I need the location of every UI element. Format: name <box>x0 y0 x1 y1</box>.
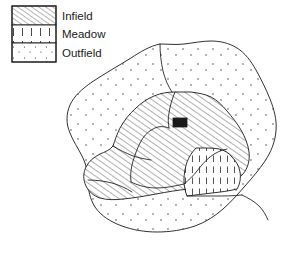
legend-swatch-meadow <box>12 25 56 43</box>
legend-label-infield: Infield <box>62 10 93 22</box>
legend-label-outfield: Outfield <box>62 47 102 59</box>
building-marker <box>173 118 187 127</box>
legend-swatch-infield <box>12 6 56 25</box>
legend-swatch-outfield <box>12 43 56 62</box>
legend-label-meadow: Meadow <box>62 28 106 40</box>
field-system-figure: Infield Meadow Outfield <box>0 0 307 254</box>
